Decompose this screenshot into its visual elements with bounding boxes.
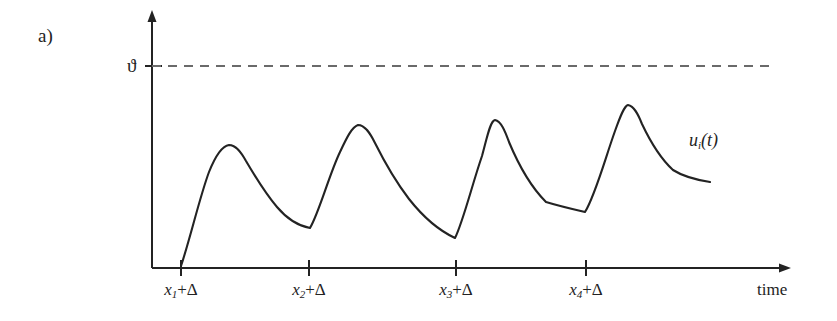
figure-panel-a: a) ϑ x1+Δ x2+Δ x3+Δ x4+Δ ui(t) time <box>0 0 837 321</box>
tick-label-x4-base: x <box>569 280 577 299</box>
x-axis-label: time <box>757 281 787 298</box>
curve-label: ui(t) <box>689 131 718 149</box>
tick-label-x3-base: x <box>439 280 447 299</box>
tick-label-x1: x1+Δ <box>164 281 198 298</box>
curve-label-tail: (t) <box>701 130 718 150</box>
tick-label-x2: x2+Δ <box>292 281 326 298</box>
threshold-symbol-label: ϑ <box>127 56 136 75</box>
x-axis <box>152 264 791 273</box>
tick-label-x1-sub: 1 <box>172 288 178 300</box>
tick-label-x2-sub: 2 <box>300 288 306 300</box>
figure-canvas <box>0 0 837 321</box>
tick-label-x4-sub: 4 <box>577 288 583 300</box>
tick-label-x3: x3+Δ <box>439 281 473 298</box>
tick-label-x2-tail: +Δ <box>305 280 326 299</box>
tick-label-x4: x4+Δ <box>569 281 603 298</box>
tick-label-x1-tail: +Δ <box>177 280 198 299</box>
y-axis <box>148 10 157 268</box>
tick-label-x4-tail: +Δ <box>582 280 603 299</box>
potential-curve <box>181 105 710 266</box>
tick-label-x3-sub: 3 <box>447 288 453 300</box>
curve-label-sub: i <box>698 139 701 151</box>
panel-label: a) <box>38 26 53 45</box>
tick-label-x1-base: x <box>164 280 172 299</box>
curve-label-base: u <box>689 130 698 150</box>
tick-label-x2-base: x <box>292 280 300 299</box>
tick-label-x3-tail: +Δ <box>452 280 473 299</box>
